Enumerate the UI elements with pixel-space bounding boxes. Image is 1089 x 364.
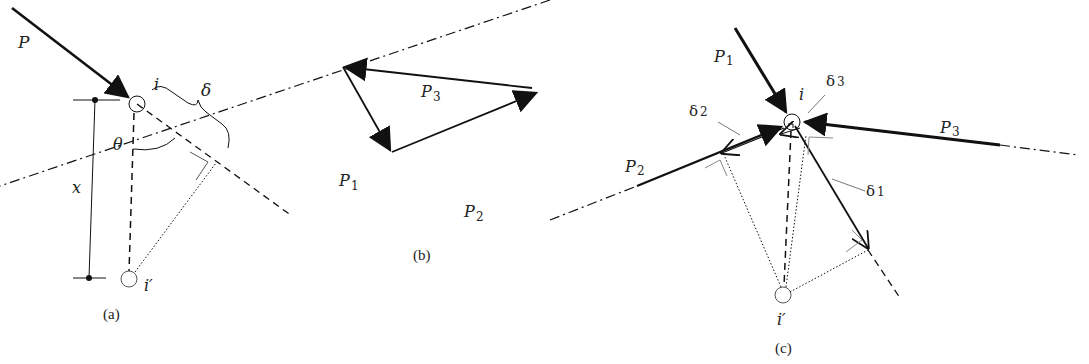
svg-text:P: P bbox=[624, 157, 636, 176]
svg-text:2: 2 bbox=[700, 105, 708, 119]
label-delta3: δ 3 bbox=[826, 72, 845, 90]
label-x: x bbox=[72, 178, 81, 197]
force-p1 bbox=[735, 28, 786, 112]
caption-a: (a) bbox=[103, 306, 120, 323]
dim-dot-bottom bbox=[86, 275, 92, 281]
delta2-arrow bbox=[722, 128, 784, 153]
svg-text:P: P bbox=[939, 118, 951, 137]
label-i: i bbox=[154, 75, 159, 94]
svg-text:1: 1 bbox=[726, 54, 734, 68]
svg-text:P: P bbox=[463, 202, 475, 221]
vertical-dashed bbox=[129, 113, 134, 272]
dotted-to-delta2 bbox=[724, 155, 781, 287]
right-angle-d2 bbox=[705, 160, 727, 176]
svg-text:δ: δ bbox=[826, 72, 835, 90]
panel-b: P 3 P 1 P 2 (b) bbox=[338, 67, 536, 264]
theta-arc bbox=[133, 138, 175, 150]
label-p2: P 2 bbox=[463, 202, 484, 224]
label-i-prime: i′ bbox=[144, 276, 153, 295]
dotted-to-delta1 bbox=[790, 250, 868, 292]
svg-text:P: P bbox=[420, 82, 432, 101]
delta1-arrow bbox=[795, 126, 868, 248]
panel-c: P 1 i δ 3 δ 2 P 3 P 2 δ 1 i′ (c) bbox=[0, 0, 1078, 357]
leader-delta3 bbox=[808, 95, 825, 113]
right-angle-mark bbox=[190, 152, 208, 180]
vector-p3 bbox=[345, 67, 532, 88]
label-p3: P 3 bbox=[420, 82, 441, 104]
caption-b: (b) bbox=[413, 247, 431, 264]
label-p3-c: P 3 bbox=[939, 118, 960, 139]
svg-text:δ: δ bbox=[866, 182, 875, 200]
svg-text:2: 2 bbox=[476, 210, 484, 224]
svg-text:3: 3 bbox=[837, 75, 845, 89]
svg-text:3: 3 bbox=[952, 125, 960, 139]
svg-text:P: P bbox=[713, 47, 725, 66]
force-p2 bbox=[637, 127, 781, 186]
dim-line bbox=[89, 100, 95, 278]
p2-extension bbox=[0, 0, 550, 186]
caption-c: (c) bbox=[775, 340, 792, 357]
leader-delta1 bbox=[832, 179, 865, 191]
p2-extension-line bbox=[550, 186, 637, 220]
force-p-arrow bbox=[12, 8, 128, 97]
svg-text:δ: δ bbox=[689, 102, 698, 120]
figure-canvas: P i i′ θ x δ (a) bbox=[0, 0, 1089, 364]
node-i-prime-c bbox=[775, 287, 791, 303]
vector-p2 bbox=[392, 93, 536, 152]
svg-text:2: 2 bbox=[637, 164, 645, 178]
label-p1: P 1 bbox=[338, 171, 359, 193]
dim-dot-top bbox=[92, 97, 98, 103]
label-delta1: δ 1 bbox=[866, 182, 885, 200]
p1-continuation bbox=[868, 250, 900, 298]
label-i-c: i bbox=[799, 85, 804, 104]
svg-text:3: 3 bbox=[433, 90, 441, 104]
label-delta2: δ 2 bbox=[689, 102, 708, 120]
dotted-to-delta3 bbox=[786, 135, 806, 287]
p3-extension bbox=[1000, 145, 1078, 155]
panel-a: P i i′ θ x δ (a) bbox=[12, 8, 292, 323]
leader-delta2 bbox=[718, 122, 740, 135]
node-i-prime bbox=[121, 271, 137, 287]
label-p2-c: P 2 bbox=[624, 157, 645, 178]
perpendicular-dotted bbox=[135, 163, 216, 272]
svg-text:1: 1 bbox=[877, 185, 885, 199]
label-i-prime-c: i′ bbox=[777, 310, 786, 329]
delta-brace bbox=[152, 86, 229, 148]
vector-p1 bbox=[343, 67, 390, 150]
line-of-action bbox=[137, 104, 292, 216]
node-i-c bbox=[784, 114, 800, 130]
vertical-dashed-c bbox=[784, 131, 791, 286]
label-theta: θ bbox=[113, 135, 123, 154]
svg-text:1: 1 bbox=[351, 179, 359, 193]
label-p1-c: P 1 bbox=[713, 47, 734, 68]
force-p3 bbox=[805, 122, 1000, 145]
svg-text:P: P bbox=[338, 171, 350, 190]
label-delta: δ bbox=[201, 80, 211, 100]
label-p: P bbox=[17, 32, 30, 52]
